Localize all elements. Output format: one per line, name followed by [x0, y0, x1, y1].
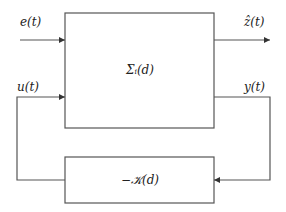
plant-block-label: Σᵢ(d)	[126, 64, 154, 76]
signal-label-u: u(t)	[17, 81, 39, 93]
signal-label-y: y(t)	[244, 81, 265, 93]
signal-label-z-hat: ẑ(t)	[244, 16, 265, 28]
u-feedback-path	[17, 97, 65, 180]
y-measurement-path	[214, 97, 270, 180]
controller-block-label: −𝒦(d)	[121, 174, 159, 186]
signal-label-e: e(t)	[20, 16, 41, 28]
